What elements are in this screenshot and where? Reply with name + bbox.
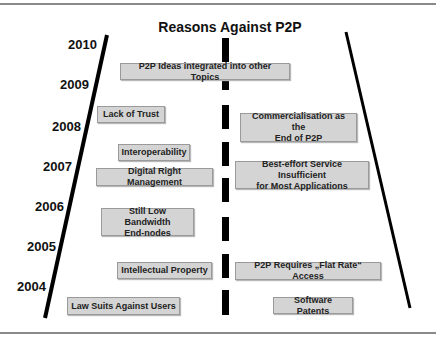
reason-low-bandwidth-end-nodes: Still Low Bandwidth End-nodes [101,208,194,236]
reason-software-patents: Software Patents [273,297,353,314]
reason-digital-right-management: Digital Right Management [96,168,213,186]
reason-p2p-ideas-integrated: P2P Ideas integrated into other Topics [120,63,290,80]
reason-law-suits-against-users: Law Suits Against Users [67,297,180,315]
year-label-2007: 2007 [43,159,72,174]
year-label-2009: 2009 [60,77,89,92]
year-label-2008: 2008 [52,119,81,134]
reason-flat-rate-access: P2P Requires „Flat Rate“ Access [235,262,381,280]
reason-lack-of-trust: Lack of Trust [97,106,165,123]
year-label-2004: 2004 [17,279,46,294]
reason-intellectual-property: Intellectual Property [117,262,212,279]
reason-best-effort-service: Best-effort Service Insufficient for Mos… [235,161,369,189]
year-label-2005: 2005 [27,239,56,254]
year-label-2010: 2010 [68,37,97,52]
reason-interoperability: Interoperability [118,144,190,161]
year-label-2006: 2006 [35,199,64,214]
reason-commercialisation: Commercialisation as the End of P2P [240,113,357,142]
